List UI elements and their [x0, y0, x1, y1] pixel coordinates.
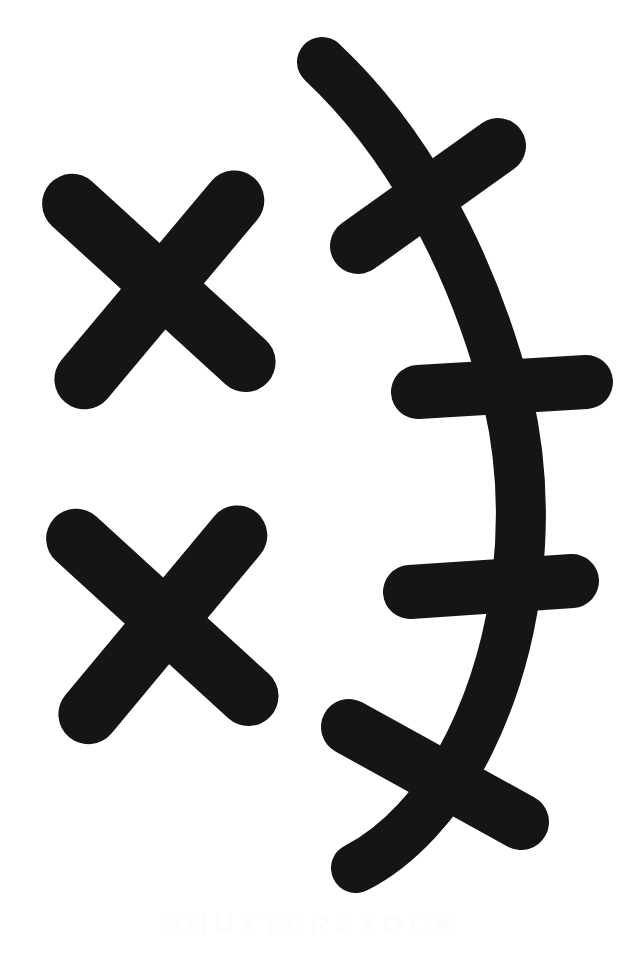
- crossbar-2: [418, 382, 586, 392]
- marks-artboard: [0, 0, 626, 954]
- page-canvas: Scanned page of hand-drawn marks SHUTTER…: [0, 0, 626, 954]
- crossbar-3: [410, 581, 572, 592]
